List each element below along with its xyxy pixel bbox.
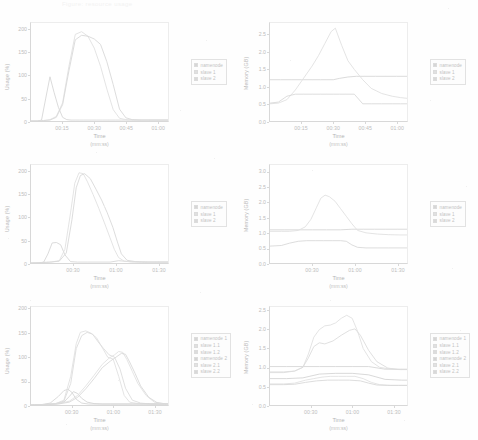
panel-top-right: 0.00.51.01.52.02.500:1500:3000:4501:00Me…	[239, 10, 478, 157]
legend-item[interactable]: slave 2.1	[194, 362, 227, 368]
y-tick-mark	[267, 34, 269, 35]
y-axis-label: Usage (%)	[4, 348, 10, 374]
x-axis-label: Time	[309, 133, 369, 139]
legend-item[interactable]: namenode 1	[194, 336, 227, 342]
legend-item[interactable]: slave 1	[194, 69, 223, 75]
y-tick-mark	[267, 122, 269, 123]
y-tick-label: 200	[6, 26, 27, 32]
y-tick-mark	[28, 99, 30, 100]
legend-swatch	[433, 337, 437, 341]
legend-swatch	[433, 77, 437, 81]
legend-label: slave 2	[440, 218, 455, 223]
chart-legend[interactable]: namenode 1slave 1.1slave 1.2namenode 2sl…	[191, 333, 231, 379]
series-line	[31, 77, 168, 121]
y-tick-mark	[28, 406, 30, 407]
y-tick-mark	[28, 264, 30, 265]
legend-swatch	[433, 350, 437, 354]
legend-item[interactable]: namenode	[433, 204, 462, 210]
chart-legend[interactable]: namenode 1slave 1.1slave 1.2namenode 2sl…	[430, 333, 470, 379]
scan-speckle	[430, 100, 431, 101]
legend-item[interactable]: slave 1	[433, 69, 462, 75]
chart-legend[interactable]: namenodeslave 1slave 2	[430, 201, 466, 227]
y-tick-mark	[267, 87, 269, 88]
legend-item[interactable]: slave 1.1	[194, 342, 227, 348]
series-line	[270, 94, 407, 104]
legend-item[interactable]: slave 1	[194, 211, 223, 217]
y-tick-label: 2.0	[245, 326, 266, 332]
y-tick-mark	[267, 387, 269, 388]
legend-item[interactable]: slave 2	[194, 76, 223, 82]
y-tick-mark	[28, 217, 30, 218]
y-tick-label: 0.5	[245, 101, 266, 107]
scan-speckle	[206, 40, 207, 41]
legend-item[interactable]: slave 2.2	[433, 369, 466, 375]
y-tick-mark	[267, 249, 269, 250]
legend-swatch	[433, 219, 437, 223]
legend-swatch	[194, 337, 198, 341]
y-tick-mark	[267, 104, 269, 105]
scan-speckle	[460, 330, 461, 331]
legend-item[interactable]: slave 1.2	[433, 349, 466, 355]
chart-legend[interactable]: namenodeslave 1slave 2	[430, 59, 466, 85]
legend-item[interactable]: namenode	[433, 62, 462, 68]
scan-speckle	[404, 420, 405, 421]
legend-label: slave 1.1	[201, 343, 220, 348]
y-tick-mark	[28, 333, 30, 334]
legend-item[interactable]: namenode 2	[194, 356, 227, 362]
legend-label: slave 1.2	[440, 350, 459, 355]
chart-legend[interactable]: namenodeslave 1slave 2	[191, 201, 227, 227]
x-tick-mark	[158, 122, 159, 124]
scan-speckle	[312, 170, 313, 171]
y-tick-label: 0	[6, 119, 27, 125]
x-tick-label: 00:15	[287, 125, 315, 131]
x-axis-label-units: (mm:ss)	[309, 141, 369, 147]
legend-label: slave 2.1	[440, 363, 459, 368]
legend-label: slave 1	[440, 212, 455, 217]
panel-mid-right: 0.00.51.01.52.02.53.000:3001:0001:30Memo…	[239, 152, 478, 299]
legend-item[interactable]: slave 2	[194, 218, 223, 224]
panel-bottom-right: 0.00.51.01.52.02.500:3001:0001:30Memory …	[239, 294, 478, 440]
legend-label: slave 1	[201, 70, 216, 75]
legend-swatch	[194, 77, 198, 81]
legend-item[interactable]: slave 1.2	[194, 349, 227, 355]
legend-item[interactable]: slave 2	[433, 76, 462, 82]
plot-area	[30, 306, 169, 406]
plot-area	[269, 164, 408, 264]
x-tick-mark	[116, 264, 117, 266]
series-line	[31, 174, 168, 263]
y-tick-label: 0.0	[245, 261, 266, 267]
y-tick-mark	[267, 172, 269, 173]
legend-item[interactable]: slave 2.2	[194, 369, 227, 375]
legend-label: namenode 2	[201, 356, 228, 361]
legend-swatch	[194, 212, 198, 216]
panel-top-left: 05010015020000:1500:3000:4501:00Usage (%…	[0, 10, 239, 157]
chart-bottom-right: 0.00.51.01.52.02.500:3001:0001:30Memory …	[239, 294, 478, 440]
legend-item[interactable]: slave 2	[433, 218, 462, 224]
x-tick-label: 01:00	[102, 267, 130, 273]
x-tick-mark	[352, 406, 353, 408]
plot-area	[30, 164, 169, 264]
legend-item[interactable]: namenode	[194, 62, 223, 68]
chart-legend[interactable]: namenodeslave 1slave 2	[191, 59, 227, 85]
legend-swatch	[433, 363, 437, 367]
legend-item[interactable]: slave 2.1	[433, 362, 466, 368]
legend-item[interactable]: namenode 2	[433, 356, 466, 362]
legend-label: slave 1	[440, 70, 455, 75]
legend-item[interactable]: namenode	[194, 204, 223, 210]
chart-top-right: 0.00.51.01.52.02.500:1500:3000:4501:00Me…	[239, 10, 478, 157]
legend-label: namenode	[440, 205, 463, 210]
chart-bottom-left: 05010015020000:3001:0001:30Usage (%)Time…	[0, 294, 239, 440]
x-tick-label: 01:00	[338, 409, 366, 415]
x-tick-label: 01:30	[145, 267, 173, 273]
series-line	[270, 380, 407, 385]
series-line	[270, 229, 407, 230]
series-line	[31, 173, 168, 263]
legend-item[interactable]: slave 1.1	[433, 342, 466, 348]
y-tick-label: 200	[6, 305, 27, 311]
legend-swatch	[433, 370, 437, 374]
legend-label: slave 2.1	[201, 363, 220, 368]
legend-item[interactable]: slave 1	[433, 211, 462, 217]
x-tick-mark	[398, 264, 399, 266]
legend-item[interactable]: namenode 1	[433, 336, 466, 342]
y-tick-mark	[28, 308, 30, 309]
